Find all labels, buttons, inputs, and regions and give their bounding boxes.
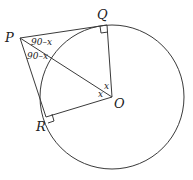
label-r: R xyxy=(35,119,46,134)
angle-label-qop: x xyxy=(104,81,109,91)
geometry-diagram: P Q O R 90–x 90–x x x xyxy=(0,0,193,180)
angle-label-rop: x xyxy=(98,89,103,99)
angle-label-rpo: 90–x xyxy=(27,51,48,61)
angle-label-qpo: 90–x xyxy=(31,37,52,47)
radius-or xyxy=(46,97,112,117)
label-o: O xyxy=(114,96,125,111)
tangent-pr xyxy=(20,38,46,117)
label-q: Q xyxy=(97,7,108,22)
label-p: P xyxy=(4,30,14,45)
